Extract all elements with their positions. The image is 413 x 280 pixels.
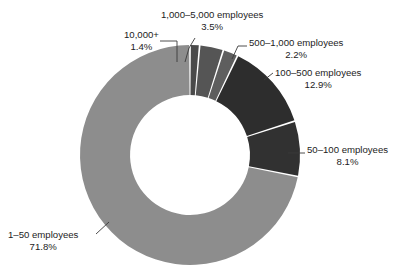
slice-label-1000-5000-pct: 3.5% xyxy=(161,21,263,33)
leader-line-1-50 xyxy=(96,222,109,234)
slice-label-1000-5000-text: 1,000–5,000 employees xyxy=(161,9,263,20)
slice-label-1000-5000: 1,000–5,000 employees 3.5% xyxy=(161,9,263,34)
slice-label-50-100: 50–100 employees 8.1% xyxy=(307,144,388,169)
slice-label-500-1000-pct: 2.2% xyxy=(249,49,343,61)
slice-label-50-100-pct: 8.1% xyxy=(307,156,388,168)
slice-label-1-50-pct: 71.8% xyxy=(8,241,78,253)
slice-label-10000-plus-pct: 1.4% xyxy=(124,41,159,53)
slice-label-100-500-text: 100–500 employees xyxy=(275,67,361,78)
slice-label-1-50-text: 1–50 employees xyxy=(8,229,78,240)
slice-label-10000-plus-text: 10,000+ xyxy=(124,29,159,40)
slice-label-50-100-text: 50–100 employees xyxy=(307,144,388,155)
slice-label-1-50: 1–50 employees 71.8% xyxy=(8,229,78,254)
slice-label-10000-plus: 10,000+ 1.4% xyxy=(124,29,159,54)
slice-label-500-1000: 500–1,000 employees 2.2% xyxy=(249,37,343,62)
slice-label-100-500: 100–500 employees 12.9% xyxy=(275,67,361,92)
slice-label-100-500-pct: 12.9% xyxy=(275,79,361,91)
donut-chart: 1,000–5,000 employees 3.5% 10,000+ 1.4% … xyxy=(0,0,413,280)
slice-label-500-1000-text: 500–1,000 employees xyxy=(249,37,343,48)
